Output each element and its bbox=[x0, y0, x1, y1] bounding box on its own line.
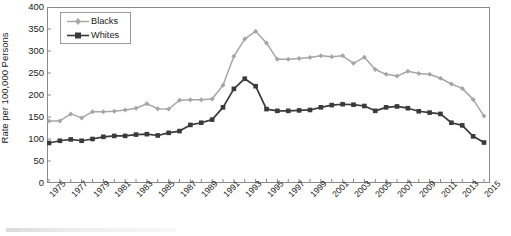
legend-marker-square-icon bbox=[66, 29, 90, 42]
legend-item-blacks: Blacks bbox=[64, 15, 130, 28]
legend-label-blacks: Blacks bbox=[91, 15, 118, 28]
legend-marker-diamond-icon bbox=[66, 15, 90, 28]
legend-item-whites: Whites bbox=[64, 29, 130, 42]
legend-label-whites: Whites bbox=[91, 29, 119, 42]
chart-legend: Blacks Whites bbox=[60, 12, 131, 44]
page-edge-artifact bbox=[6, 228, 176, 232]
chart-figure: 400350300250200150100500 Rate per 100,00… bbox=[0, 0, 511, 236]
y-axis-title: Rate per 100,000 Persons bbox=[0, 0, 12, 176]
